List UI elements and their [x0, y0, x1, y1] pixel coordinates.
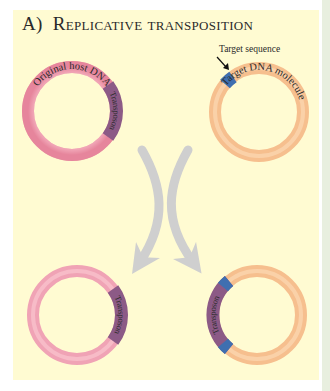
target-dna-ring: Target DNA molecule	[215, 61, 308, 156]
target-sequence-copy-top	[223, 281, 229, 287]
callout-arrow	[217, 57, 226, 67]
process-arrows	[140, 150, 193, 262]
arrow-to-bottom-right	[171, 150, 193, 262]
target-sequence-callout: Target sequence	[219, 44, 280, 54]
arrow-to-bottom-left	[140, 150, 159, 262]
original-host-dna-ring: Original host DNA Transposon	[28, 60, 122, 155]
host-dna-ring-result: Transposon	[33, 271, 127, 359]
diagram-canvas: Original host DNA Transposon Target DNA …	[0, 0, 330, 391]
target-sequence-copy-bottom	[223, 343, 229, 349]
target-dna-ring-result: Transposon	[207, 271, 301, 359]
